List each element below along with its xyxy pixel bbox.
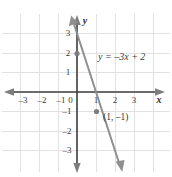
equation-annotation: y = –3x + 2 [97,51,145,62]
y-axis-label: y [82,15,88,26]
grid-lines [2,14,170,172]
y-tick-labels: 3 2 1 –1 –2 –3 [62,28,73,155]
x-tick-label: –1 [56,95,66,105]
y-tick-label: –1 [62,106,72,116]
x-tick-label: –3 [18,95,29,105]
point-annotation: (1, –1) [103,112,128,123]
x-tick-label-origin: 0 [68,95,73,105]
x-tick-label: 1 [94,95,99,105]
annotations: y = –3x + 2 (1, –1) [97,51,145,123]
axes [4,15,165,173]
x-tick-label: 2 [113,95,118,105]
y-tick-label: 1 [66,67,71,77]
x-axis-label: x [156,94,162,105]
y-axis-arrow-down [73,163,80,173]
x-axis-arrow-left [4,88,14,96]
y-tick-label: –3 [62,145,73,155]
graph-canvas: –3 –2 –1 0 1 2 3 3 2 1 –1 –2 –3 x y y = … [0,0,172,177]
line-arrow-bottom [116,160,125,172]
y-tick-label: 3 [66,28,71,38]
point-y-intercept [74,51,79,56]
point-1-minus-1 [94,109,99,114]
y-tick-label: 2 [66,48,71,58]
y-tick-label: –2 [62,126,72,136]
coordinate-plane-figure: –3 –2 –1 0 1 2 3 3 2 1 –1 –2 –3 x y y = … [0,0,172,177]
x-tick-label: –2 [37,95,47,105]
x-tick-label: 3 [132,95,137,105]
